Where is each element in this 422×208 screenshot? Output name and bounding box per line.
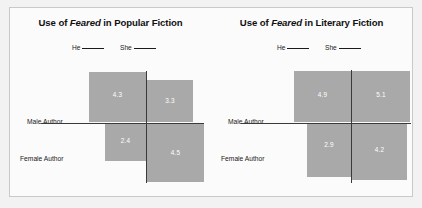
horizontal-axis-line bbox=[41, 123, 204, 124]
figure-sheet: Use of Feared in Popular Fiction He She … bbox=[9, 7, 413, 197]
cell-value-female-she: 4.2 bbox=[352, 146, 407, 153]
cell-female-she[interactable]: 4.2 bbox=[352, 124, 407, 180]
cell-male-she[interactable]: 3.3 bbox=[147, 80, 193, 122]
cell-female-he[interactable]: 2.9 bbox=[307, 124, 351, 177]
plot-area-popular-fiction: 4.3 3.3 2.4 4.5 bbox=[10, 8, 211, 196]
chart-literary-fiction: Use of Feared in Literary Fiction He She… bbox=[211, 8, 412, 196]
cell-female-he[interactable]: 2.4 bbox=[105, 124, 146, 161]
cell-value-male-he: 4.9 bbox=[294, 91, 351, 98]
cell-male-he[interactable]: 4.3 bbox=[89, 72, 146, 122]
cell-male-she[interactable]: 5.1 bbox=[352, 71, 410, 122]
cell-value-female-he: 2.9 bbox=[307, 141, 351, 148]
cell-female-she[interactable]: 4.5 bbox=[147, 124, 204, 182]
chart-popular-fiction: Use of Feared in Popular Fiction He She … bbox=[10, 8, 211, 196]
plot-area-literary-fiction: 4.9 5.1 2.9 4.2 bbox=[211, 8, 412, 196]
cell-value-male-she: 3.3 bbox=[147, 97, 193, 104]
vertical-axis-line bbox=[146, 71, 147, 183]
cell-value-female-he: 2.4 bbox=[105, 137, 146, 144]
cell-value-male-she: 5.1 bbox=[352, 91, 410, 98]
horizontal-axis-line bbox=[241, 123, 411, 124]
charts-container: Use of Feared in Popular Fiction He She … bbox=[10, 8, 412, 196]
page-background: Use of Feared in Popular Fiction He She … bbox=[0, 0, 422, 208]
cell-male-he[interactable]: 4.9 bbox=[294, 71, 351, 122]
vertical-axis-line bbox=[351, 70, 352, 183]
cell-value-male-he: 4.3 bbox=[89, 91, 146, 98]
cell-value-female-she: 4.5 bbox=[147, 149, 204, 156]
